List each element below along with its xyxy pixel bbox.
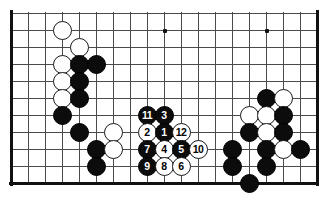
move-number-label: 11 [139, 107, 156, 124]
move-stone-6[interactable]: 6 [172, 157, 191, 176]
move-number-label: 12 [173, 124, 190, 141]
stone-black[interactable] [70, 89, 89, 108]
move-number-label: 10 [190, 141, 207, 158]
go-board[interactable]: 113211274510986 [0, 0, 330, 216]
move-number-label: 1 [156, 124, 173, 141]
stone-white[interactable] [70, 38, 89, 57]
stone-black[interactable] [257, 157, 276, 176]
stone-black[interactable] [274, 123, 293, 142]
grid-line-vertical [28, 12, 29, 184]
stone-black[interactable] [240, 174, 259, 193]
move-stone-5[interactable]: 5 [172, 140, 191, 159]
stone-black[interactable] [257, 89, 276, 108]
stone-white[interactable] [53, 21, 72, 40]
move-stone-7[interactable]: 7 [138, 140, 157, 159]
stone-white[interactable] [274, 140, 293, 159]
stone-black[interactable] [87, 140, 106, 159]
stone-white[interactable] [53, 72, 72, 91]
stone-black[interactable] [87, 157, 106, 176]
board-edge-left [10, 10, 13, 186]
move-number-label: 3 [156, 107, 173, 124]
move-stone-12[interactable]: 12 [172, 123, 191, 142]
move-number-label: 2 [139, 124, 156, 141]
stone-black[interactable] [257, 140, 276, 159]
move-stone-2[interactable]: 2 [138, 123, 157, 142]
board-edge-right [316, 10, 319, 186]
stone-white[interactable] [104, 140, 123, 159]
move-number-label: 9 [139, 158, 156, 175]
grid-line-vertical [130, 12, 131, 184]
stone-black[interactable] [87, 55, 106, 74]
star-point [265, 29, 269, 33]
stone-black[interactable] [240, 123, 259, 142]
stone-black[interactable] [70, 123, 89, 142]
move-stone-1[interactable]: 1 [155, 123, 174, 142]
stone-black[interactable] [223, 140, 242, 159]
stone-white[interactable] [257, 123, 276, 142]
board-edge-bottom [9, 182, 319, 185]
stone-white[interactable] [53, 89, 72, 108]
stone-white[interactable] [240, 106, 259, 125]
move-stone-3[interactable]: 3 [155, 106, 174, 125]
grid-line-vertical [215, 12, 216, 184]
go-diagram-figure: 113211274510986 [0, 0, 330, 216]
move-number-label: 8 [156, 158, 173, 175]
move-stone-10[interactable]: 10 [189, 140, 208, 159]
stone-white[interactable] [257, 106, 276, 125]
stone-white[interactable] [53, 55, 72, 74]
grid-line-vertical [45, 12, 46, 184]
stone-white[interactable] [104, 123, 123, 142]
move-stone-11[interactable]: 11 [138, 106, 157, 125]
star-point [163, 29, 167, 33]
stone-black[interactable] [291, 140, 310, 159]
stone-black[interactable] [70, 72, 89, 91]
stone-white[interactable] [274, 89, 293, 108]
move-stone-4[interactable]: 4 [155, 140, 174, 159]
stone-black[interactable] [223, 157, 242, 176]
grid-line-vertical [249, 12, 250, 184]
move-number-label: 7 [139, 141, 156, 158]
stone-black[interactable] [274, 106, 293, 125]
move-stone-9[interactable]: 9 [138, 157, 157, 176]
move-number-label: 5 [173, 141, 190, 158]
stone-black[interactable] [53, 106, 72, 125]
move-number-label: 4 [156, 141, 173, 158]
move-number-label: 6 [173, 158, 190, 175]
move-stone-8[interactable]: 8 [155, 157, 174, 176]
stone-black[interactable] [70, 55, 89, 74]
